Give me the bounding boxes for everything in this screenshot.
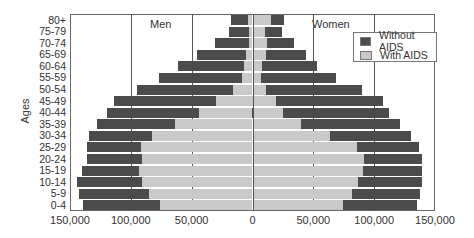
bar-men-with-aids xyxy=(199,108,253,118)
legend: Without AIDS With AIDS xyxy=(353,32,437,62)
bar-women-with-aids xyxy=(253,154,365,164)
x-tick-label: 150,000 xyxy=(50,214,90,226)
bar-women-with-aids xyxy=(253,108,283,118)
x-tick-label: 100,000 xyxy=(354,214,394,226)
center-line xyxy=(253,14,254,211)
bar-men-with-aids xyxy=(142,154,253,164)
bar-men-with-aids xyxy=(139,166,252,176)
y-tick-label: 45-49 xyxy=(24,96,66,107)
population-pyramid-chart: Ages Men Women 80+75-7970-7465-6960-6455… xyxy=(0,0,474,238)
bar-men-with-aids xyxy=(242,73,253,83)
bar-men-with-aids xyxy=(141,142,253,152)
y-tick-label: 80+ xyxy=(24,15,66,26)
legend-swatch-light xyxy=(360,51,372,60)
bar-men-with-aids xyxy=(233,85,252,95)
bar-women-with-aids xyxy=(253,61,263,71)
bar-women-with-aids xyxy=(253,142,358,152)
bar-women-with-aids xyxy=(253,177,359,187)
legend-label: With AIDS xyxy=(380,49,428,61)
x-tick-label: 50,000 xyxy=(297,214,331,226)
y-tick-label: 10-14 xyxy=(24,177,66,188)
y-tick-label: 50-54 xyxy=(24,84,66,95)
bar-men-without-aids xyxy=(215,38,253,48)
bar-women-without-aids xyxy=(253,85,363,95)
women-label: Women xyxy=(312,18,350,30)
y-tick-label: 75-79 xyxy=(24,26,66,37)
legend-swatch-dark xyxy=(360,37,371,46)
bar-women-with-aids xyxy=(253,119,302,129)
bar-women-with-aids xyxy=(253,73,262,83)
bar-women-with-aids xyxy=(253,131,331,141)
y-tick-label: 0-4 xyxy=(24,200,66,211)
y-tick-label: 65-69 xyxy=(24,49,66,60)
bar-men-with-aids xyxy=(149,189,252,199)
y-tick-label: 35-39 xyxy=(24,119,66,130)
bar-women-with-aids xyxy=(253,27,265,37)
bar-men-with-aids xyxy=(142,177,253,187)
bar-women-without-aids xyxy=(253,73,337,83)
y-tick-label: 70-74 xyxy=(24,38,66,49)
men-label: Men xyxy=(150,18,171,30)
bar-men-with-aids xyxy=(175,119,253,129)
bar-men-without-aids xyxy=(178,61,252,71)
bar-women-with-aids xyxy=(253,200,343,210)
x-tick-label: 50,000 xyxy=(175,214,209,226)
y-tick-label: 55-59 xyxy=(24,72,66,83)
x-tick-label: 100,000 xyxy=(111,214,151,226)
y-tick-label: 20-24 xyxy=(24,154,66,165)
y-tick-label: 60-64 xyxy=(24,61,66,72)
bar-men-without-aids xyxy=(159,73,253,83)
y-tick-label: 40-44 xyxy=(24,107,66,118)
bar-men-with-aids xyxy=(216,96,253,106)
bar-men-with-aids xyxy=(244,61,253,71)
legend-item-with-aids: With AIDS xyxy=(360,49,428,61)
bar-women-with-aids xyxy=(253,166,364,176)
legend-item-without-aids: Without AIDS xyxy=(360,35,436,47)
bar-women-with-aids xyxy=(253,38,268,48)
bar-women-with-aids xyxy=(253,96,276,106)
bar-women-with-aids xyxy=(253,15,271,25)
x-tick-label: 0 xyxy=(249,214,255,226)
y-tick-label: 30-34 xyxy=(24,130,66,141)
y-tick-label: 5-9 xyxy=(24,188,66,199)
bar-men-without-aids xyxy=(197,50,253,60)
bar-men-with-aids xyxy=(152,131,253,141)
y-tick-label: 15-19 xyxy=(24,165,66,176)
bar-men-with-aids xyxy=(160,200,252,210)
y-tick-label: 25-29 xyxy=(24,142,66,153)
bar-women-with-aids xyxy=(253,85,266,95)
bar-women-with-aids xyxy=(253,50,266,60)
x-tick-label: 150,000 xyxy=(415,214,455,226)
bar-women-with-aids xyxy=(253,189,353,199)
